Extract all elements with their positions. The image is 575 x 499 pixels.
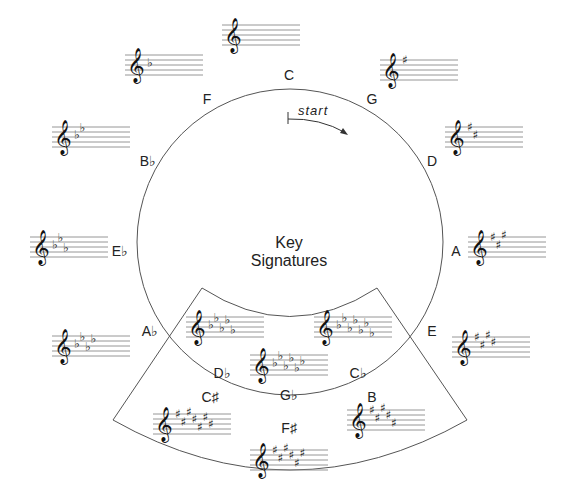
start-arrow: start	[288, 103, 348, 135]
treble-clef-icon: 𝄞	[382, 52, 400, 89]
flat-icon: ♭	[300, 354, 306, 368]
treble-clef-icon: 𝄞	[155, 406, 173, 443]
key-f: 𝄞♭F	[125, 47, 211, 107]
key-label: D♭	[213, 365, 230, 381]
flat-icon: ♭	[63, 241, 69, 255]
treble-clef-icon: 𝄞	[349, 402, 367, 439]
treble-clef-icon: 𝄞	[54, 328, 72, 365]
sharp-icon: ♯	[501, 228, 507, 242]
key-a: 𝄞♯♯♯A	[451, 228, 546, 267]
key-d: 𝄞♯♯D	[427, 119, 523, 169]
flat-icon: ♭	[147, 56, 153, 70]
treble-clef-icon: 𝄞	[470, 229, 488, 266]
key-g: 𝄞♯G	[367, 52, 458, 107]
key-label: A	[451, 243, 461, 259]
key-c-sharp: 𝄞♯♯♯♯♯♯♯C♯	[153, 389, 231, 443]
treble-clef-icon: 𝄞	[252, 442, 270, 479]
title-line-2: Signatures	[251, 252, 328, 269]
sharp-icon: ♯	[300, 446, 306, 460]
treble-clef-icon: 𝄞	[127, 47, 145, 84]
flat-icon: ♭	[369, 326, 375, 340]
key-label: A♭	[142, 323, 158, 339]
key-label: C♯	[201, 389, 219, 405]
treble-clef-icon: 𝄞	[32, 229, 50, 266]
treble-clef-icon: 𝄞	[188, 309, 206, 346]
key-label: F♯	[281, 420, 298, 436]
key-label: E	[427, 323, 436, 339]
key-b: 𝄞♯♯♯♯♯B	[347, 389, 425, 439]
key-label: B	[367, 389, 376, 405]
key-c: 𝄞C	[222, 17, 300, 83]
circle-of-fifths-diagram: start Key Signatures 𝄞C𝄞♯G𝄞♯♯D𝄞♯♯♯A𝄞♯♯♯♯…	[0, 0, 575, 499]
key-label: C	[284, 67, 294, 83]
sharp-icon: ♯	[391, 416, 397, 430]
treble-clef-icon: 𝄞	[252, 347, 270, 384]
treble-clef-icon: 𝄞	[316, 309, 334, 346]
sharp-icon: ♯	[208, 417, 214, 431]
start-label: start	[298, 103, 329, 118]
flat-icon: ♭	[80, 121, 86, 135]
treble-clef-icon: 𝄞	[454, 329, 472, 366]
sharp-icon: ♯	[491, 335, 497, 349]
key-g-flat: 𝄞♭♭♭♭♭♭G♭	[250, 347, 328, 403]
flat-icon: ♭	[230, 323, 236, 337]
key-label: G	[367, 91, 378, 107]
enharmonic-sector	[113, 288, 467, 470]
key-a-flat: 𝄞♭♭♭♭A♭	[52, 323, 158, 365]
title-line-1: Key	[275, 234, 303, 251]
key-f-sharp: 𝄞♯♯♯♯♯♯F♯	[250, 420, 328, 479]
treble-clef-icon: 𝄞	[54, 119, 72, 156]
sharp-icon: ♯	[473, 128, 479, 142]
key-label: D	[427, 153, 437, 169]
key-label: G♭	[280, 387, 298, 403]
treble-clef-icon: 𝄞	[447, 119, 465, 156]
key-label: E♭	[112, 243, 128, 259]
key-b-flat: 𝄞♭♭B♭	[52, 119, 156, 169]
sharp-icon: ♯	[402, 53, 408, 67]
key-e-flat: 𝄞♭♭♭E♭	[30, 229, 128, 266]
treble-clef-icon: 𝄞	[224, 17, 242, 54]
flat-icon: ♭	[91, 332, 97, 346]
key-label: C♭	[349, 365, 366, 381]
key-label: B♭	[140, 153, 156, 169]
key-label: F	[203, 91, 212, 107]
key-e: 𝄞♯♯♯♯E	[427, 323, 530, 366]
